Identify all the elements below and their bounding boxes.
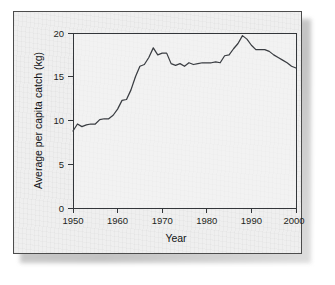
- y-axis-tick-labels: 0 5 10 15 20: [53, 28, 64, 214]
- y-axis-title: Average per capita catch (kg): [32, 52, 44, 189]
- x-axis-ticks: [73, 208, 296, 213]
- y-axis-ticks: [68, 33, 73, 208]
- x-axis-title: Year: [165, 232, 187, 244]
- x-tick-label-1980: 1980: [196, 215, 217, 226]
- plot-area-background: [73, 33, 296, 208]
- y-tick-label-0: 0: [59, 203, 64, 214]
- y-tick-label-10: 10: [53, 115, 64, 126]
- line-chart: 0 5 10 15 20 1950 1960 1970 1980 1990 20…: [0, 0, 335, 285]
- x-tick-label-2000: 2000: [283, 215, 304, 226]
- y-tick-label-15: 15: [53, 71, 64, 82]
- x-axis-tick-labels: 1950 1960 1970 1980 1990 2000: [62, 215, 304, 226]
- x-tick-label-1960: 1960: [107, 215, 128, 226]
- x-tick-label-1990: 1990: [241, 215, 262, 226]
- x-tick-label-1950: 1950: [62, 215, 83, 226]
- y-tick-label-5: 5: [59, 159, 64, 170]
- y-tick-label-20: 20: [53, 28, 64, 39]
- x-tick-label-1970: 1970: [152, 215, 173, 226]
- figure-root: 0 5 10 15 20 1950 1960 1970 1980 1990 20…: [0, 0, 335, 285]
